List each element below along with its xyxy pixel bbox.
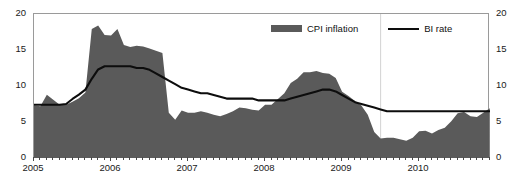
x-axis-tick — [463, 157, 464, 160]
x-axis-tick — [136, 157, 137, 160]
cropped-title-sliver — [0, 0, 520, 6]
chart-legend: CPI inflation BI rate — [271, 22, 452, 35]
x-axis-tick — [328, 157, 329, 160]
x-axis-tick — [33, 157, 34, 161]
x-axis-tick — [309, 157, 310, 160]
x-axis-tick — [489, 157, 490, 160]
series-area-cpi-inflation — [34, 26, 490, 158]
x-axis-tick — [123, 157, 124, 160]
x-axis-tick — [367, 157, 368, 160]
x-axis-tick — [341, 157, 342, 161]
x-axis-tick — [322, 157, 323, 160]
x-axis-tick — [245, 157, 246, 160]
x-axis-tick — [110, 157, 111, 161]
x-axis-tick — [84, 157, 85, 160]
x-axis-tick — [457, 157, 458, 160]
x-axis-tick — [476, 157, 477, 160]
x-axis-tick — [303, 157, 304, 160]
x-axis-tick — [354, 157, 355, 160]
x-axis-tick — [226, 157, 227, 160]
x-axis-tick — [232, 157, 233, 160]
x-axis-tick — [97, 157, 98, 160]
x-axis-label-2005: 2005 — [22, 162, 43, 173]
x-axis-tick — [181, 157, 182, 160]
x-axis-tick — [277, 157, 278, 160]
x-axis-tick — [431, 157, 432, 160]
x-axis-tick — [405, 157, 406, 160]
x-axis-tick — [46, 157, 47, 160]
x-axis-tick — [219, 157, 220, 160]
x-axis-tick — [174, 157, 175, 160]
y-axis-right-tick-0: 0 — [496, 152, 520, 162]
chart-canvas — [34, 14, 490, 158]
x-axis-tick — [238, 157, 239, 160]
x-axis-tick — [39, 157, 40, 160]
x-axis-label-2010: 2010 — [407, 162, 428, 173]
x-axis-label-2009: 2009 — [330, 162, 351, 173]
x-axis-tick — [65, 157, 66, 160]
y-axis-left-tick-10: 10 — [2, 80, 26, 90]
x-axis-tick — [251, 157, 252, 160]
x-axis-tick — [264, 157, 265, 161]
x-axis-tick — [116, 157, 117, 160]
legend-label-bi-rate: BI rate — [424, 23, 452, 34]
x-axis-label-2007: 2007 — [176, 162, 197, 173]
x-axis-tick — [149, 157, 150, 160]
x-axis-tick — [450, 157, 451, 160]
x-axis-tick — [444, 157, 445, 160]
legend-item-bi-rate: BI rate — [388, 23, 452, 34]
x-axis-tick — [91, 157, 92, 160]
y-axis-right-tick-20: 20 — [496, 8, 520, 18]
x-axis-tick — [418, 157, 419, 161]
x-axis-tick — [78, 157, 79, 160]
line-swatch-icon — [388, 28, 419, 30]
x-axis-tick — [52, 157, 53, 160]
x-axis-tick — [386, 157, 387, 160]
x-axis-tick — [161, 157, 162, 160]
x-axis-tick — [470, 157, 471, 160]
x-axis-tick — [335, 157, 336, 160]
x-axis-tick — [412, 157, 413, 160]
y-axis-right-tick-15: 15 — [496, 44, 520, 54]
x-axis-tick — [316, 157, 317, 160]
x-axis-tick — [193, 157, 194, 160]
x-axis-tick — [206, 157, 207, 160]
x-axis-tick — [348, 157, 349, 160]
y-axis-left-tick-15: 15 — [2, 44, 26, 54]
x-axis-tick — [360, 157, 361, 160]
x-axis-tick — [168, 157, 169, 160]
x-axis-tick — [72, 157, 73, 160]
x-axis-tick — [482, 157, 483, 160]
x-axis-tick — [187, 157, 188, 161]
x-axis-tick — [104, 157, 105, 160]
x-axis-tick — [399, 157, 400, 160]
x-axis-label-2008: 2008 — [253, 162, 274, 173]
x-axis-tick — [283, 157, 284, 160]
x-axis-tick — [290, 157, 291, 160]
area-swatch-icon — [271, 25, 302, 32]
x-axis-tick — [393, 157, 394, 160]
x-axis-tick — [200, 157, 201, 160]
y-axis-right-tick-5: 5 — [496, 116, 520, 126]
x-axis-label-2006: 2006 — [99, 162, 120, 173]
x-axis-tick — [59, 157, 60, 160]
x-axis-tick — [129, 157, 130, 160]
x-axis-tick — [380, 157, 381, 160]
y-axis-left-tick-20: 20 — [2, 8, 26, 18]
x-axis-tick — [296, 157, 297, 160]
x-axis-tick — [213, 157, 214, 160]
x-axis-tick — [155, 157, 156, 160]
x-axis-tick — [425, 157, 426, 160]
x-axis-tick — [258, 157, 259, 160]
chart-figure: 20 15 10 5 0 20 15 10 5 0 2005 2006 2007… — [0, 0, 520, 186]
y-axis-left-tick-5: 5 — [2, 116, 26, 126]
legend-label-cpi-inflation: CPI inflation — [307, 23, 358, 34]
x-axis-tick — [271, 157, 272, 160]
x-axis-tick — [437, 157, 438, 160]
x-axis-tick — [373, 157, 374, 160]
x-axis-tick — [142, 157, 143, 160]
y-axis-right-tick-10: 10 — [496, 80, 520, 90]
legend-item-cpi-inflation: CPI inflation — [271, 23, 358, 34]
y-axis-left-tick-0: 0 — [2, 152, 26, 162]
